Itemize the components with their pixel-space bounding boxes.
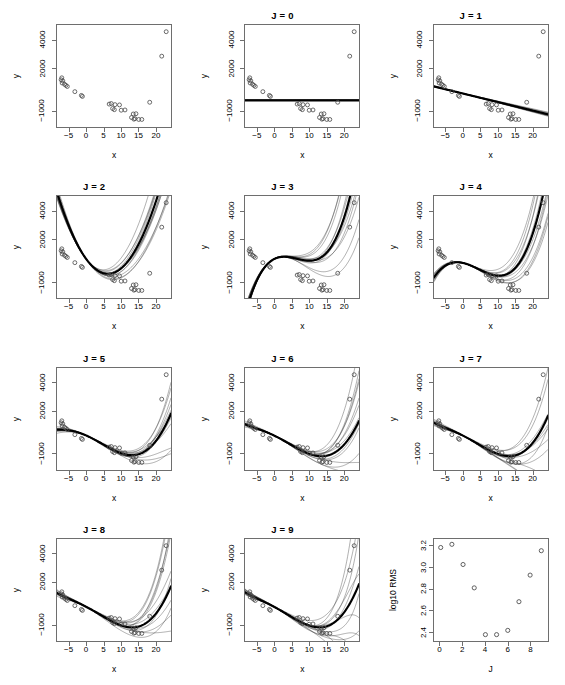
x-axis-label: J [433, 664, 549, 674]
y-axis-label: log10 RMS [387, 538, 399, 642]
data-point [261, 90, 265, 94]
y-axis-label: y [387, 195, 399, 299]
y-tick-label: −1000 [210, 106, 240, 116]
x-axis-label: x [433, 150, 549, 160]
panel-J6: J = 6yx−100020004000−505101520 [188, 343, 376, 514]
x-tick-label: 0 [460, 474, 464, 483]
y-tick-label: 4000 [22, 548, 52, 558]
rms-point [528, 573, 532, 577]
data-point [536, 397, 540, 401]
y-axis-tick [429, 567, 433, 568]
y-tick-label: −1000 [399, 106, 429, 116]
rms-point [494, 632, 498, 636]
data-point [268, 93, 272, 97]
data-point [160, 397, 164, 401]
y-axis-tick [52, 211, 56, 212]
y-tick-label: 4000 [210, 548, 240, 558]
plot-area [56, 538, 172, 642]
data-point [73, 261, 77, 265]
x-tick-labels: 02468 [433, 645, 549, 659]
x-tick-label: 0 [84, 474, 88, 483]
y-tick-labels: −100020004000 [210, 538, 240, 642]
x-tick-label: −5 [64, 302, 73, 311]
y-axis-tick [52, 68, 56, 69]
x-tick-label: −5 [441, 131, 450, 140]
y-tick-label: 4000 [399, 377, 429, 387]
y-axis-tick [429, 589, 433, 590]
y-axis-tick [429, 411, 433, 412]
panel-title: J = 8 [0, 524, 188, 535]
data-point [119, 108, 123, 112]
x-axis-label: x [244, 493, 360, 503]
y-axis-tick [429, 632, 433, 633]
bootstrap-curve [57, 397, 171, 456]
rms-point [483, 632, 487, 636]
data-point [301, 616, 305, 620]
y-axis-tick [429, 382, 433, 383]
data-point [457, 266, 461, 270]
bootstrap-curve [57, 415, 171, 451]
x-tick-label: 20 [528, 131, 537, 140]
bootstrap-curve [434, 368, 548, 451]
plot-area [244, 195, 360, 299]
bootstrap-curve [245, 589, 359, 635]
x-tick-label: 5 [290, 474, 294, 483]
data-point [79, 93, 83, 97]
x-tick-labels: −505101520 [433, 302, 549, 316]
y-tick-labels: 2.42.62.83.03.2 [399, 538, 429, 642]
x-tick-labels: −505101520 [433, 131, 549, 145]
x-tick-label: 5 [101, 474, 105, 483]
y-tick-label: −1000 [22, 277, 52, 287]
x-tick-label: −5 [441, 302, 450, 311]
y-axis-tick [429, 282, 433, 283]
x-tick-label: 5 [101, 645, 105, 654]
x-tick-labels: −505101520 [244, 131, 360, 145]
bootstrap-curve [434, 379, 548, 450]
y-tick-label: −1000 [210, 620, 240, 630]
x-tick-label: 20 [151, 302, 160, 311]
data-point [494, 103, 498, 107]
data-point [79, 607, 83, 611]
y-tick-label: 2000 [399, 63, 429, 73]
x-tick-labels: −505101520 [244, 302, 360, 316]
y-axis-label: y [10, 195, 22, 299]
data-point [80, 437, 84, 441]
y-tick-label: 4000 [399, 206, 429, 216]
y-tick-label: 2.6 [399, 605, 429, 615]
x-tick-label: −5 [252, 645, 261, 654]
x-tick-label: 15 [511, 302, 520, 311]
data-point [511, 283, 515, 287]
data-point [541, 30, 545, 34]
x-tick-labels: −505101520 [56, 645, 172, 659]
x-tick-label: 15 [511, 474, 520, 483]
y-tick-label: −1000 [399, 448, 429, 458]
data-point [160, 225, 164, 229]
y-tick-label: 4000 [22, 377, 52, 387]
y-axis-tick [52, 625, 56, 626]
data-point [490, 103, 494, 107]
data-point [118, 103, 122, 107]
x-tick-label: 10 [117, 474, 126, 483]
y-tick-label: 2000 [210, 63, 240, 73]
x-tick-label: 0 [460, 302, 464, 311]
data-point [496, 108, 500, 112]
x-tick-label: 10 [117, 645, 126, 654]
rms-point [505, 628, 509, 632]
data-point [457, 94, 461, 98]
panel-data: yx−100020004000−505101520 [0, 0, 188, 171]
y-tick-labels: −100020004000 [22, 367, 52, 471]
x-tick-label: 0 [84, 645, 88, 654]
x-tick-label: 15 [134, 131, 143, 140]
x-axis-label: x [433, 493, 549, 503]
data-point [511, 112, 515, 116]
x-axis-label: x [56, 664, 172, 674]
rms-point [539, 548, 543, 552]
y-axis-tick [52, 453, 56, 454]
y-tick-label: 2.8 [399, 584, 429, 594]
y-tick-label: 2000 [22, 577, 52, 587]
x-axis-label: x [56, 493, 172, 503]
y-axis-tick [52, 111, 56, 112]
y-axis-tick [429, 111, 433, 112]
panel-J0: J = 0yx−100020004000−505101520 [188, 0, 376, 171]
x-tick-label: 20 [151, 131, 160, 140]
